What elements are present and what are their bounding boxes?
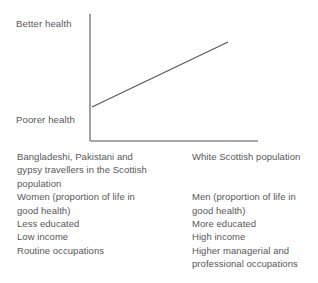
left-population-line: Routine occupations: [17, 244, 169, 257]
comparison-columns: Bangladeshi, Pakistani andgypsy travelle…: [0, 150, 318, 283]
health-inequality-figure: Better health Poorer health Bangladeshi,…: [0, 0, 318, 283]
right-population-column: White Scottish population Men (proportio…: [192, 150, 318, 271]
left-population-line: Bangladeshi, Pakistani and: [17, 150, 169, 163]
left-population-line: good health): [17, 204, 169, 217]
right-population-line: Higher managerial and: [192, 244, 318, 257]
right-population-line: good health): [192, 204, 318, 217]
left-population-line: Women (proportion of life in: [17, 190, 169, 203]
right-population-line: White Scottish population: [192, 150, 318, 163]
right-population-line: High income: [192, 230, 318, 243]
chart-plot: [0, 0, 318, 150]
right-population-line: professional occupations: [192, 257, 318, 270]
left-population-line: Less educated: [17, 217, 169, 230]
right-population-line: Men (proportion of life in: [192, 190, 318, 203]
chart-area: Better health Poorer health: [0, 0, 318, 150]
left-population-column: Bangladeshi, Pakistani andgypsy travelle…: [17, 150, 169, 257]
right-population-line: More educated: [192, 217, 318, 230]
left-population-line: population: [17, 177, 169, 190]
trend-line: [92, 42, 228, 107]
left-population-line: gypsy travellers in the Scottish: [17, 163, 169, 176]
left-population-line: Low income: [17, 230, 169, 243]
